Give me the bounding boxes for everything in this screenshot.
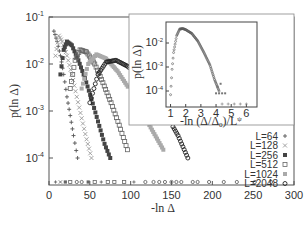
x-tick-label: 100 <box>121 189 139 201</box>
x-tick-label: 300 <box>285 189 303 201</box>
legend-label: L=2048 <box>244 178 278 189</box>
chart-canvas: 05010015020025030010-110-210-310-4 -ln Δ… <box>0 0 308 226</box>
legend-marker-icon <box>283 153 287 157</box>
y-tick-label: 10-4 <box>26 151 45 164</box>
inset-x-label-sup: ψ <box>237 115 242 123</box>
legend-marker-icon <box>283 144 287 148</box>
baseline-points <box>54 180 273 183</box>
inset-x-tick-label: 6 <box>243 107 249 119</box>
x-tick-label: 150 <box>162 189 180 201</box>
legend-marker-icon <box>283 172 287 176</box>
y-tick-label: 10-3 <box>26 104 45 117</box>
legend-marker-icon <box>283 134 287 138</box>
x-axis-label: -ln Δ <box>151 201 175 215</box>
x-tick-label: 50 <box>84 189 96 201</box>
x-tick-label: 200 <box>203 189 221 201</box>
inset-x-label-tail: )/L <box>223 114 238 128</box>
x-tick-label: 250 <box>244 189 262 201</box>
inset-y-axis-label: p(ln Δ) <box>130 45 144 79</box>
inset-x-tick-label: 1 <box>167 107 173 119</box>
inset-x-axis-label: -ln (Δ/Δ0)/Lψ <box>180 114 242 129</box>
x-tick-label: 0 <box>46 189 52 201</box>
legend: L=64L=128L=256L=512L=1024L=2048 <box>244 131 287 190</box>
inset-x-label-main: -ln (Δ/Δ <box>180 114 219 128</box>
y-axis-label: p(ln Δ) <box>7 84 21 118</box>
legend-marker-icon <box>283 163 287 167</box>
y-tick-label: 10-2 <box>26 57 45 70</box>
y-tick-label: 10-1 <box>26 10 45 23</box>
